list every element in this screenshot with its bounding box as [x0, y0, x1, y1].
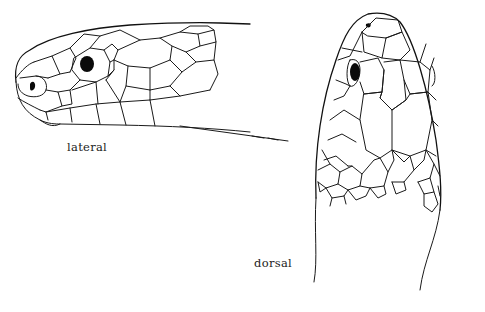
dorsal-eye	[350, 63, 360, 81]
dorsal-view-drawing	[0, 0, 485, 312]
lateral-view-label: lateral	[67, 140, 107, 154]
dorsal-view-label: dorsal	[254, 256, 292, 270]
figure: lateral dorsal	[0, 0, 485, 312]
